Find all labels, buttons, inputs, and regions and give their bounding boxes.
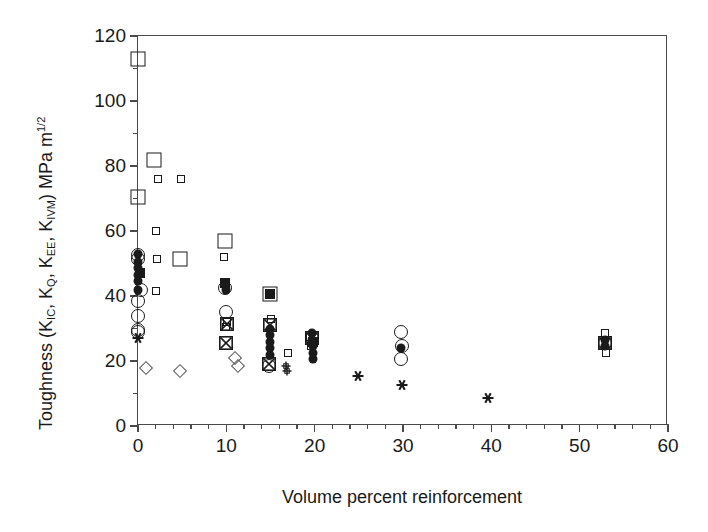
y-tick-label: 0 [115,415,126,437]
x-tick-label: 0 [133,435,144,457]
data-point-circle-filled [397,344,406,353]
x-tick-minor [349,424,350,429]
x-tick-major [402,424,403,432]
x-tick-major [579,424,580,432]
data-point-circle-filled [265,350,274,359]
data-point-square-open-small [177,175,185,183]
data-point-asterisk [133,333,144,344]
x-tick-minor [473,424,474,429]
data-point-circle-open [394,325,408,339]
x-tick-minor [561,424,562,429]
y-axis-title-mid1: , K [36,287,56,309]
x-tick-minor [279,424,280,429]
y-tick-label: 80 [105,155,126,177]
y-tick-minor [133,68,138,69]
x-tick-minor [208,424,209,429]
data-point-square-open-small [153,255,161,263]
x-tick-major [314,424,315,432]
x-tick-major [226,424,227,432]
data-point-asterisk [397,380,408,391]
data-point-circle-filled [308,355,317,364]
x-tick-minor [597,424,598,429]
data-point-square-open-small [220,253,228,261]
data-point-square-open-large [131,51,146,66]
x-tick-label: 50 [569,435,590,457]
chart-figure: Toughness (KIC, KQ, KEE, KIVM) MPa m1/2 … [0,0,708,532]
y-axis-title-sub-ic: IC [45,309,57,320]
x-tick-label: 10 [216,435,237,457]
data-point-asterisk [352,370,363,381]
x-tick-minor [632,424,633,429]
x-tick-major [137,424,138,432]
data-point-circle-open [262,359,276,373]
x-tick-minor [173,424,174,429]
y-axis-title-sub-q: Q [45,278,57,287]
y-tick-label: 40 [105,285,126,307]
y-axis-title-mid2: , K [36,256,56,278]
x-tick-minor [332,424,333,429]
x-axis-title: Volume percent reinforcement [137,487,667,508]
data-point-circle-filled [222,285,231,294]
data-point-circle-open [394,352,408,366]
y-axis-title-exponent: 1/2 [35,117,47,132]
data-point-circle-open [219,305,233,319]
data-point-square-x [219,336,233,350]
x-tick-minor [385,424,386,429]
data-point-diamond-open [172,364,186,378]
data-point-square-open-large [217,233,232,248]
data-point-square-open-small [152,227,160,235]
y-tick-minor [133,133,138,134]
data-point-circle-filled [601,342,610,351]
y-axis-title-tail: ) MPa m [36,132,56,200]
x-tick-minor [420,424,421,429]
y-axis-title-mid3: , K [36,220,56,242]
x-tick-minor [367,424,368,429]
y-tick-label: 20 [105,350,126,372]
x-tick-major [491,424,492,432]
y-tick-major [130,165,138,166]
x-tick-minor [190,424,191,429]
data-point-circle-filled [134,285,143,294]
y-tick-major [130,360,138,361]
data-point-square-open-large [146,152,161,167]
data-point-diamond-open [139,360,153,374]
data-point-square-open-large [173,251,188,266]
y-tick-label: 100 [94,90,126,112]
y-tick-major [130,100,138,101]
x-tick-minor [438,424,439,429]
data-point-square-open-small [152,287,160,295]
x-tick-minor [261,424,262,429]
data-point-square-open-small [284,349,292,357]
x-tick-label: 40 [481,435,502,457]
plot-area: 020406080100120 0102030405060 [137,35,667,425]
y-tick-major [130,35,138,36]
data-point-asterisk [482,393,493,404]
data-point-plus-open [283,366,292,375]
y-axis-title-sub-ivm: IVM [45,200,57,220]
x-tick-minor [544,424,545,429]
x-tick-minor [243,424,244,429]
data-point-circle-open [131,309,145,323]
x-tick-minor [155,424,156,429]
y-tick-label: 120 [94,25,126,47]
y-axis-title-lead: Toughness (K [36,320,56,430]
x-tick-label: 30 [392,435,413,457]
x-tick-minor [455,424,456,429]
data-point-square-filled [265,289,275,299]
x-tick-label: 20 [304,435,325,457]
y-axis-title-sub-ee: EE [45,242,57,257]
y-tick-major [130,230,138,231]
y-tick-label: 60 [105,220,126,242]
x-tick-minor [526,424,527,429]
y-tick-minor [133,393,138,394]
x-tick-label: 60 [657,435,678,457]
data-point-square-open-small [154,175,162,183]
y-axis-title: Toughness (KIC, KQ, KEE, KIVM) MPa m1/2 [6,30,46,430]
x-tick-minor [296,424,297,429]
x-tick-minor [650,424,651,429]
x-tick-minor [508,424,509,429]
x-tick-major [667,424,668,432]
data-point-square-open-large [131,189,146,204]
x-tick-minor [614,424,615,429]
